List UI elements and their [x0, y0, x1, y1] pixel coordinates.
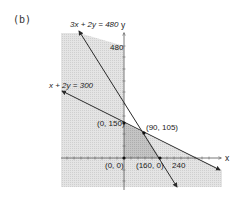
- label-eq1: 3x + 2y = 480: [70, 20, 119, 29]
- label-point-0-150: (0, 150): [97, 119, 125, 128]
- label-point-90-105: (90, 105): [146, 123, 178, 132]
- panel-label: (b): [13, 14, 31, 25]
- label-eq2: x + 2y = 300: [48, 81, 94, 90]
- x-tick-240: 240: [172, 161, 186, 170]
- y-tick-480: 480: [110, 43, 124, 52]
- point-160-0: [158, 156, 161, 159]
- label-point-160-0: (160, 0): [136, 161, 164, 170]
- point-origin: [122, 156, 125, 159]
- y-axis-label: y: [121, 20, 126, 30]
- chart-figure: (b): [0, 0, 245, 199]
- label-point-origin: (0, 0): [105, 161, 124, 170]
- x-axis-label: x: [225, 153, 230, 163]
